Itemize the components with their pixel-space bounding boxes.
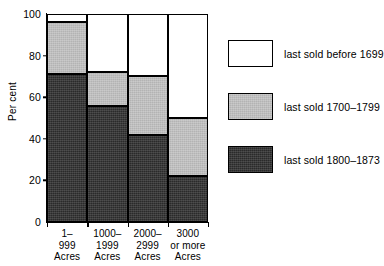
legend-swatch bbox=[228, 93, 273, 120]
bar-segment[interactable] bbox=[87, 106, 127, 222]
bar-segment[interactable] bbox=[87, 72, 127, 105]
y-axis-tick-label: 20 bbox=[29, 174, 41, 186]
x-axis-tick-mark bbox=[168, 222, 169, 227]
y-axis-tick-label: 0 bbox=[35, 216, 41, 228]
bar-segment[interactable] bbox=[128, 135, 168, 222]
bar-stack[interactable] bbox=[128, 14, 168, 222]
x-axis-category-label: 1–999Acres bbox=[47, 228, 87, 263]
legend-swatch bbox=[228, 40, 273, 67]
x-axis-category-line: 1999 bbox=[87, 240, 127, 252]
x-axis-tick-mark bbox=[208, 222, 209, 227]
x-axis-tick-mark bbox=[47, 222, 48, 227]
x-axis-category-line: Acres bbox=[47, 251, 87, 263]
x-axis-category-line: 1000– bbox=[87, 228, 127, 240]
x-axis-category-line: Acres bbox=[87, 251, 127, 263]
bar-segment[interactable] bbox=[168, 176, 208, 222]
x-axis-category-line: 2999 bbox=[128, 240, 168, 252]
legend-item[interactable]: last sold before 1699 bbox=[228, 40, 384, 67]
bar-segment[interactable] bbox=[168, 14, 208, 118]
x-axis-category-line: 999 bbox=[47, 240, 87, 252]
x-axis-category-line: 1– bbox=[47, 228, 87, 240]
y-axis-tick-label: 100 bbox=[23, 8, 41, 20]
legend-label: last sold before 1699 bbox=[284, 48, 384, 60]
x-axis-category-label: 3000or moreAcres bbox=[168, 228, 208, 263]
legend-item[interactable]: last sold 1800–1873 bbox=[228, 146, 380, 173]
plot-area: 020406080100 bbox=[47, 14, 208, 222]
legend-label: last sold 1700–1799 bbox=[284, 101, 380, 113]
bar-stack[interactable] bbox=[87, 14, 127, 222]
x-axis-category-line: 2000– bbox=[128, 228, 168, 240]
y-axis-tick-label: 80 bbox=[29, 50, 41, 62]
y-axis-title: Per cent bbox=[7, 66, 18, 138]
legend-label: last sold 1800–1873 bbox=[284, 154, 380, 166]
legend-item[interactable]: last sold 1700–1799 bbox=[228, 93, 380, 120]
bar-segment[interactable] bbox=[168, 118, 208, 176]
legend-swatch bbox=[228, 146, 273, 173]
y-axis-tick-label: 60 bbox=[29, 91, 41, 103]
y-axis-tick-label: 40 bbox=[29, 133, 41, 145]
bar-stack[interactable] bbox=[168, 14, 208, 222]
x-axis-category-line: 3000 bbox=[168, 228, 208, 240]
x-axis-category-line: or more bbox=[168, 240, 208, 252]
x-axis-category-label: 1000–1999Acres bbox=[87, 228, 127, 263]
bar-segment[interactable] bbox=[47, 22, 87, 74]
x-axis-category-line: Acres bbox=[168, 251, 208, 263]
x-axis-category-line: Acres bbox=[128, 251, 168, 263]
bar-segment[interactable] bbox=[128, 76, 168, 134]
bar-segment[interactable] bbox=[47, 74, 87, 222]
bar-segment[interactable] bbox=[128, 14, 168, 76]
x-axis-tick-mark bbox=[87, 222, 88, 227]
x-axis-tick-mark bbox=[128, 222, 129, 227]
bar-segment[interactable] bbox=[87, 14, 127, 72]
bar-stack[interactable] bbox=[47, 14, 87, 222]
x-axis-category-label: 2000–2999Acres bbox=[128, 228, 168, 263]
bar-segment[interactable] bbox=[47, 14, 87, 22]
